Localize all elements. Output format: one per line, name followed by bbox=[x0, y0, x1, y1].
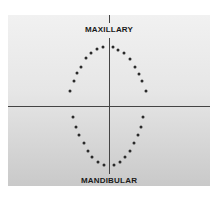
horizontal-axis bbox=[8, 106, 210, 107]
mandibular-dot bbox=[83, 142, 86, 145]
maxillary-dot bbox=[80, 66, 83, 69]
maxillary-dot bbox=[129, 58, 132, 61]
maxillary-dot bbox=[69, 90, 72, 93]
mandibular-dot bbox=[133, 142, 136, 145]
mandibular-dot bbox=[119, 161, 122, 164]
mandibular-dot bbox=[113, 164, 116, 167]
mandibular-dot bbox=[91, 156, 94, 159]
maxillary-label: MAXILLARY bbox=[85, 25, 133, 34]
vertical-tick-top bbox=[109, 15, 110, 23]
mandibular-dot bbox=[75, 126, 78, 129]
maxillary-dot bbox=[145, 90, 148, 93]
maxillary-dot bbox=[141, 80, 144, 83]
mandibular-dot bbox=[129, 150, 132, 153]
maxillary-dot bbox=[102, 46, 105, 49]
mandibular-dot bbox=[72, 116, 75, 119]
maxillary-dot bbox=[123, 52, 126, 55]
maxillary-dot bbox=[117, 49, 120, 52]
mandibular-dot bbox=[124, 156, 127, 159]
mandibular-dot bbox=[137, 134, 140, 137]
maxillary-dot bbox=[76, 72, 79, 75]
maxillary-dot bbox=[138, 73, 141, 76]
mandibular-dot bbox=[97, 161, 100, 164]
maxillary-dot bbox=[134, 66, 137, 69]
mandibular-dot bbox=[87, 150, 90, 153]
mandibular-dot bbox=[140, 126, 143, 129]
mandibular-dot bbox=[103, 164, 106, 167]
mandibular-label: MANDIBULAR bbox=[81, 176, 137, 185]
mandibular-dot bbox=[78, 134, 81, 137]
maxillary-dot bbox=[85, 57, 88, 60]
maxillary-dot bbox=[73, 80, 76, 83]
maxillary-dot bbox=[112, 46, 115, 49]
maxillary-dot bbox=[90, 52, 93, 55]
mandibular-dot bbox=[142, 116, 145, 119]
maxillary-dot bbox=[96, 48, 99, 51]
